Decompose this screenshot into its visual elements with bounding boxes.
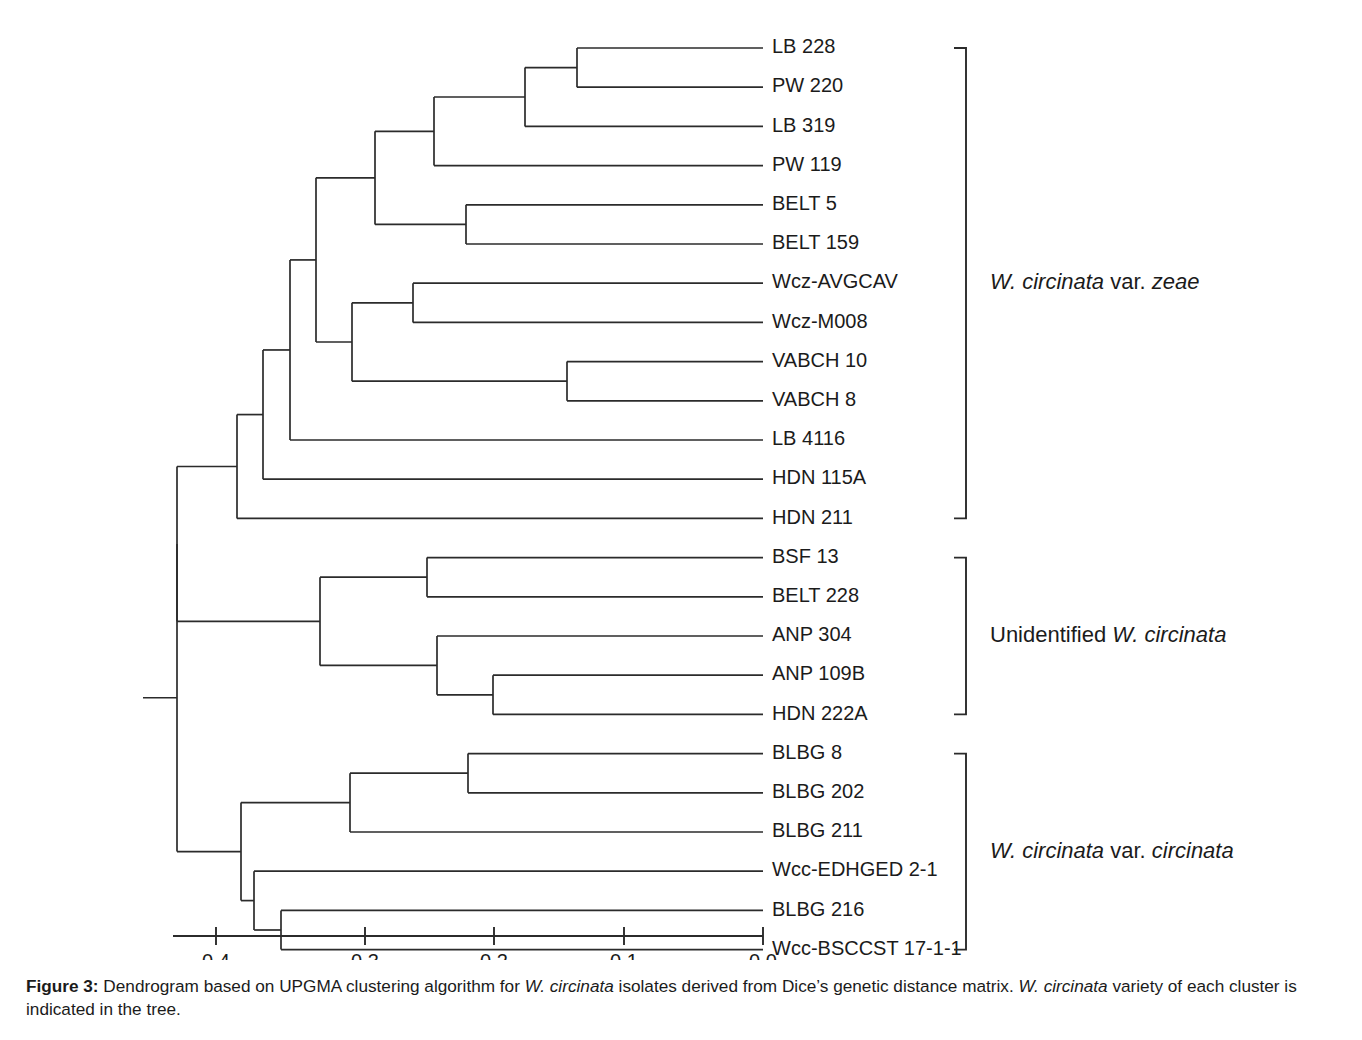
cluster-bracket	[954, 754, 966, 950]
leaf-label: LB 4116	[772, 427, 845, 449]
cluster-labels: W. circinata var. zeaeUnidentified W. ci…	[990, 269, 1234, 862]
cluster-label: Unidentified W. circinata	[990, 622, 1226, 647]
cluster-bracket	[954, 558, 966, 715]
leaf-label: Wcc-BSCCST 17-1-1	[772, 937, 962, 959]
axis-tick-label: 0.3	[351, 950, 379, 960]
axis-tick-label: 0.1	[610, 950, 638, 960]
leaf-label: LB 319	[772, 114, 835, 136]
axis-tick-label: 0.2	[480, 950, 508, 960]
leaf-label: Wcc-EDHGED 2-1	[772, 858, 938, 880]
leaf-label: ANP 304	[772, 623, 852, 645]
tree-branches	[143, 48, 763, 950]
axis-tick-label: 0.4	[202, 950, 230, 960]
leaf-label: HDN 222A	[772, 702, 868, 724]
leaf-label: BELT 228	[772, 584, 859, 606]
leaf-label: VABCH 10	[772, 349, 867, 371]
leaf-label: VABCH 8	[772, 388, 856, 410]
cluster-label: W. circinata var. zeae	[990, 269, 1200, 294]
caption-species-1: W. circinata	[525, 976, 614, 996]
leaf-label: BLBG 216	[772, 898, 864, 920]
cluster-brackets	[954, 48, 966, 950]
leaf-label: Wcz-M008	[772, 310, 868, 332]
axis-tick-label: 0.0	[749, 950, 777, 960]
cluster-bracket	[954, 48, 966, 518]
leaf-label: PW 119	[772, 153, 842, 175]
leaf-label: HDN 211	[772, 506, 853, 528]
leaf-label: BLBG 202	[772, 780, 864, 802]
leaf-label: ANP 109B	[772, 662, 865, 684]
leaf-label: BELT 159	[772, 231, 859, 253]
caption-species-2: W. circinata	[1019, 976, 1108, 996]
leaf-label: BLBG 211	[772, 819, 863, 841]
leaf-label: BELT 5	[772, 192, 837, 214]
caption-text-1: Dendrogram based on UPGMA clustering alg…	[99, 976, 525, 996]
dendrogram-chart: LB 228PW 220LB 319PW 119BELT 5BELT 159Wc…	[0, 0, 1362, 960]
figure-caption: Figure 3: Dendrogram based on UPGMA clus…	[26, 975, 1346, 1020]
cluster-label: W. circinata var. circinata	[990, 837, 1234, 862]
leaf-label: LB 228	[772, 35, 835, 57]
figure-container: LB 228PW 220LB 319PW 119BELT 5BELT 159Wc…	[0, 0, 1362, 1040]
leaf-label: HDN 115A	[772, 466, 867, 488]
distance-axis: 0.40.30.20.10.0	[173, 927, 777, 960]
leaf-label: BSF 13	[772, 545, 839, 567]
leaf-label: Wcz-AVGCAV	[772, 270, 899, 292]
caption-text-2: isolates derived from Dice’s genetic dis…	[614, 976, 1019, 996]
leaf-label: BLBG 8	[772, 741, 842, 763]
leaf-labels: LB 228PW 220LB 319PW 119BELT 5BELT 159Wc…	[772, 35, 962, 959]
leaf-label: PW 220	[772, 74, 843, 96]
figure-number: Figure 3:	[26, 976, 99, 996]
